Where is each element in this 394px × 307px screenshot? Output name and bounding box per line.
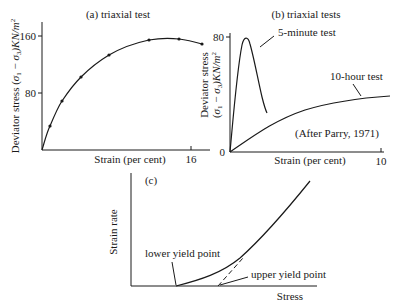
panel-b-ytick-label-0: 0	[220, 146, 226, 158]
panel-a: (a) triaxial test 160 80 16 Strain (per …	[9, 8, 210, 166]
panel-a-xtick-label-16: 16	[186, 153, 198, 165]
panel-b: (b) triaxial tests 80 0 10 Strain (per c…	[198, 8, 390, 167]
panel-b-xlabel: Strain (per cent)	[274, 154, 346, 167]
panel-b-5min-leader	[260, 36, 274, 47]
panel-c-lower-label: lower yield point	[145, 247, 220, 259]
panel-c-ylabel: Strain rate	[107, 209, 119, 255]
panel-b-source: (After Parry, 1971)	[295, 127, 379, 140]
panel-a-ytick-label-80: 80	[25, 87, 37, 99]
panel-b-ylabel-line2: (σ1 − σ3)KN/m2	[210, 51, 224, 118]
panel-a-title: (a) triaxial test	[86, 8, 150, 21]
panel-b-10hr-label: 10-hour test	[330, 70, 383, 82]
panel-b-title: (b) triaxial tests	[271, 8, 340, 21]
panel-c-upper-label: upper yield point	[251, 268, 326, 280]
panel-c-title: (c)	[145, 174, 158, 187]
figure: (a) triaxial test 160 80 16 Strain (per …	[0, 0, 394, 307]
panel-b-ytick-label-80: 80	[213, 31, 225, 43]
panel-b-5min-curve	[230, 38, 267, 152]
panel-a-curve	[42, 38, 202, 150]
panel-b-ylabel-line1: Deviator stress	[198, 52, 210, 118]
panel-c-upper-leader	[220, 277, 248, 285]
panel-c: (c) Strain rate Stress lower yield point…	[107, 173, 326, 302]
panel-b-5min-label: 5-minute test	[278, 26, 336, 38]
panel-a-ytick-label-160: 160	[20, 30, 37, 42]
panel-a-ylabel: Deviator stress (σ1 − σ3)KN/m2	[9, 18, 23, 153]
panel-b-xtick-label-10: 10	[376, 155, 388, 167]
panel-a-markers	[48, 37, 203, 127]
panel-c-lower-leader	[172, 262, 176, 285]
panel-b-10hr-leader	[353, 84, 361, 96]
panel-b-10hr-curve	[230, 96, 390, 152]
panel-a-xlabel: Strain (per cent)	[94, 153, 166, 166]
panel-c-xlabel: Stress	[277, 290, 303, 302]
